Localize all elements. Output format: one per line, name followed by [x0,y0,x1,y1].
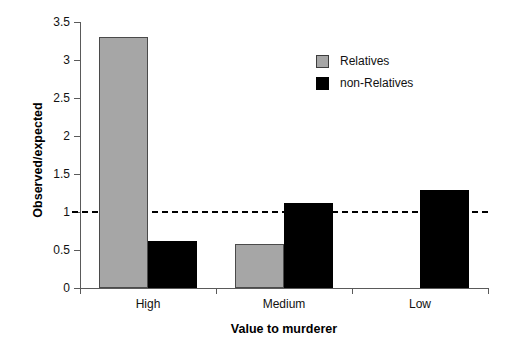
y-tick-mark [74,136,80,137]
y-tick-mark [74,60,80,61]
bar-medium-relatives [235,244,284,288]
y-tick-label-wrap: 0 [26,282,70,294]
bar-medium-non-relatives [284,203,333,288]
y-tick-label: 0.5 [30,244,70,256]
y-tick-label-wrap: 3.5 [26,16,70,28]
x-axis-label: Value to murderer [80,322,488,336]
y-tick-mark [74,22,80,23]
y-tick-label-wrap: 2.5 [26,92,70,104]
y-tick-label: 3 [30,54,70,66]
bar-chart-figure: Observed/expected Value to murderer 00.5… [0,0,505,347]
legend-item-relatives: Relatives [316,50,413,72]
legend-swatch-relatives-icon [316,55,329,68]
x-tick-mark [80,288,81,294]
y-tick-label: 1 [30,206,70,218]
legend-label-non-relatives: non-Relatives [340,76,413,90]
x-tick-mark [488,288,489,294]
legend-item-non-relatives: non-Relatives [316,72,413,94]
bar-high-non-relatives [148,241,197,288]
y-tick-label: 2 [30,130,70,142]
y-axis-label: Observed/expected [31,60,45,260]
y-tick-mark [74,174,80,175]
y-tick-label-wrap: 2 [26,130,70,142]
legend: Relatives non-Relatives [316,50,413,94]
bar-low-non-relatives [420,190,469,288]
y-tick-label: 0 [30,282,70,294]
y-tick-label-wrap: 3 [26,54,70,66]
y-axis-line [80,22,81,289]
y-tick-label-wrap: 1.5 [26,168,70,180]
x-tick-mark [216,288,217,294]
bar-high-relatives [99,37,148,288]
x-tick-label-medium: Medium [224,297,344,311]
x-tick-label-high: High [88,297,208,311]
legend-swatch-non-relatives-icon [316,77,329,90]
y-tick-label: 3.5 [30,16,70,28]
y-tick-label: 1.5 [30,168,70,180]
x-axis-line [80,288,488,289]
y-tick-mark [74,250,80,251]
y-tick-label: 2.5 [30,92,70,104]
y-tick-mark [74,98,80,99]
x-tick-label-low: Low [360,297,480,311]
y-tick-label-wrap: 0.5 [26,244,70,256]
legend-label-relatives: Relatives [340,54,389,68]
x-tick-mark [352,288,353,294]
y-tick-label-wrap: 1 [26,206,70,218]
